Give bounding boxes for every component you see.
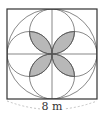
dimension-label-wrapper: 8 m	[0, 101, 104, 113]
dimension-label: 8 m	[40, 100, 65, 113]
